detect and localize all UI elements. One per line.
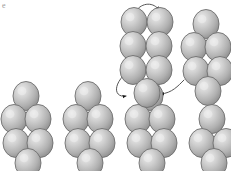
bead-highlight-icon: [198, 15, 207, 24]
bead-highlight-icon: [82, 154, 91, 163]
bead-highlight-icon: [20, 154, 29, 163]
bead-highlight-icon: [206, 154, 215, 163]
bead-highlight-icon: [152, 13, 161, 22]
bead-highlight-icon: [30, 110, 39, 119]
bead-highlight-icon: [218, 134, 227, 143]
bead-highlight-icon: [188, 62, 197, 71]
diagram-canvas: e: [0, 0, 231, 171]
bead-bridge-lower: [134, 79, 160, 108]
bead-highlight-icon: [80, 87, 89, 96]
bead-highlight-icon: [126, 13, 135, 22]
bead-highlight-icon: [130, 110, 139, 119]
bead-highlight-icon: [32, 134, 41, 143]
bead-highlight-icon: [132, 134, 141, 143]
beads-unit-4-raised: [181, 10, 231, 106]
bead-highlight-icon: [151, 37, 160, 46]
bead-highlight-icon: [94, 134, 103, 143]
bead-highlight-icon: [139, 84, 148, 93]
bead-highlight-icon: [154, 110, 163, 119]
bead-highlight-icon: [186, 38, 195, 47]
bead-chain-svg: [0, 0, 231, 171]
bead-highlight-icon: [68, 110, 77, 119]
bead-highlight-icon: [194, 134, 203, 143]
bead-highlight-icon: [8, 134, 17, 143]
bead-highlight-icon: [144, 154, 153, 163]
bead: [195, 77, 221, 106]
bead-highlight-icon: [151, 61, 160, 70]
bead-highlight-icon: [210, 38, 219, 47]
bead-highlight-icon: [18, 87, 27, 96]
bead-highlight-icon: [200, 82, 209, 91]
beads-unit-5-ground-right: [189, 105, 231, 172]
bead-highlight-icon: [70, 134, 79, 143]
bead-highlight-icon: [6, 110, 15, 119]
bead-highlight-icon: [156, 134, 165, 143]
beads-unit-1-ground: [1, 82, 53, 172]
bead-highlight-icon: [212, 62, 221, 71]
bead: [134, 79, 160, 108]
bead-highlight-icon: [125, 37, 134, 46]
bead-highlight-icon: [204, 110, 213, 119]
bead-highlight-icon: [92, 110, 101, 119]
beads-unit-2-ground: [63, 82, 115, 172]
bead-highlight-icon: [125, 61, 134, 70]
beads-lifted-loop: [120, 8, 173, 85]
